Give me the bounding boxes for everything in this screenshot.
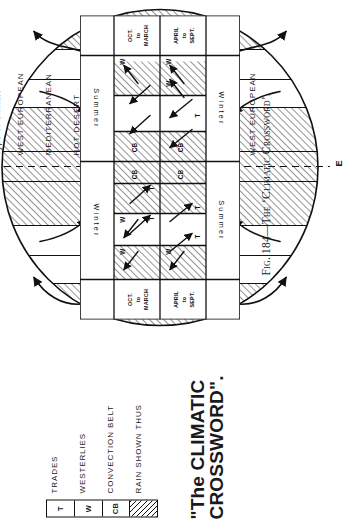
figure-title-line-1: "The CLIMATIC: [188, 309, 207, 519]
season-label-south-top: Summer: [92, 88, 101, 128]
cell-r1-c2: W: [119, 215, 126, 222]
cell-r1-c5: CB: [131, 169, 138, 179]
climate-label-west-european-2: WEST EUROPEAN: [248, 72, 257, 155]
figure-title-line-2: CROSSWORD".: [207, 309, 226, 519]
legend-swatch-convection-belt: CB: [103, 500, 131, 516]
legend-swatch-rain-hatch: [130, 500, 157, 516]
period-left-top-l3: MARCH: [143, 288, 149, 309]
legend-label-rain-shown-thus: RAIN SHOWN THUS: [134, 404, 143, 493]
figure-title: "The CLIMATIC CROSSWORD".: [188, 309, 227, 519]
cell-r2-c9: W: [165, 57, 172, 64]
cell-r2-c4: CB: [177, 169, 184, 179]
legend-label-convection-belt: CONVECTION BELT: [106, 405, 115, 493]
legend-swatch-trades: T: [47, 500, 75, 516]
period-right-bottom-l1: APRIL: [173, 26, 179, 44]
plate-canvas: "The CLIMATIC CROSSWORD". T W CB TRADES …: [38, 0, 282, 525]
climate-type-header: Type of Climate: [0, 88, 2, 155]
legend-label-list: TRADES WESTERLIES CONVECTION BELT RAIN S…: [46, 343, 158, 493]
period-right-bottom-l3: SEPT.: [189, 27, 195, 43]
period-left-bottom-l3: SEPT.: [189, 291, 195, 307]
legend-label-trades: TRADES: [50, 455, 59, 493]
cell-r1-c9: W: [119, 57, 126, 64]
period-left-bottom-l1: APRIL: [173, 290, 179, 308]
crossword-grid: Winter Summer Summer Winter OCT. to MARC…: [80, 15, 240, 319]
legend-swatch-westerlies: W: [75, 500, 103, 516]
period-right-top-l3: MARCH: [143, 24, 149, 45]
cell-r1-c1: W: [119, 247, 126, 254]
cell-r2-c2: T: [194, 234, 201, 238]
climate-label-west-european-1: WEST EUROPEAN: [16, 72, 25, 155]
period-right-top-l1: OCT.: [127, 28, 133, 41]
season-label-south-bottom: Winter: [217, 91, 226, 125]
climate-label-mediterranean-1: MEDITERRANEAN: [44, 73, 53, 155]
season-label-north-top: Winter: [92, 203, 101, 237]
cell-r2-c7: T: [194, 113, 201, 117]
equator-marker-bottom: E: [334, 159, 344, 166]
period-left-top-l1: OCT.: [127, 292, 133, 305]
period-left-bottom-l2: to: [181, 296, 187, 302]
legend-swatch-box: T W CB: [46, 499, 158, 517]
figure-plate: "The CLIMATIC CROSSWORD". T W CB TRADES …: [38, 0, 282, 525]
figure-caption: Fig. 184—The ‘Climatic Crossword’.: [260, 5, 272, 275]
season-label-north-bottom: Summer: [217, 200, 226, 240]
legend-label-westerlies: WESTERLIES: [78, 432, 87, 493]
cell-r2-c3: T: [194, 205, 201, 209]
period-right-top-l2: to: [135, 32, 141, 38]
cell-r1-c6: CB: [131, 142, 138, 152]
period-left-top-l2: to: [135, 296, 141, 302]
period-right-bottom-l2: to: [181, 32, 187, 38]
cell-r2-c5: CB: [177, 142, 184, 152]
